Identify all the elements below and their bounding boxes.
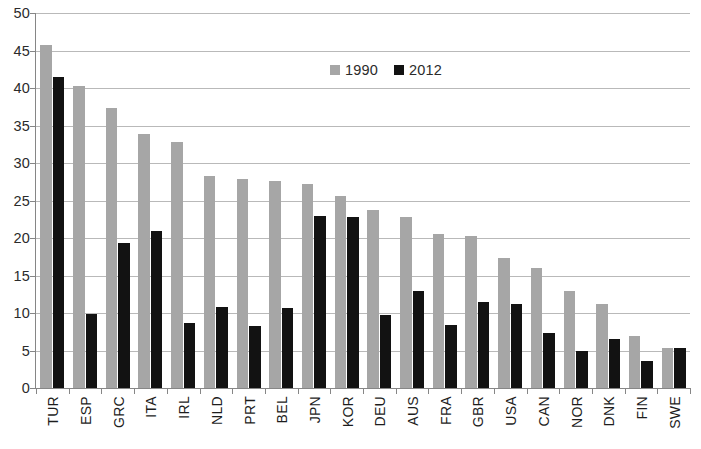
x-axis-tick-mark bbox=[363, 388, 364, 394]
x-axis-tick-mark bbox=[396, 388, 397, 394]
y-axis-tick-mark bbox=[30, 313, 35, 314]
bar-2012-USA bbox=[511, 304, 523, 388]
y-axis-tick-mark bbox=[30, 126, 35, 127]
bar-group bbox=[625, 13, 658, 388]
x-axis-tick-mark bbox=[690, 388, 691, 394]
bar-2012-KOR bbox=[347, 217, 359, 388]
x-axis-label-ITA: ITA bbox=[143, 396, 159, 418]
x-axis-tick-mark bbox=[167, 388, 168, 394]
bar-2012-GBR bbox=[478, 302, 490, 388]
bar-2012-GRC bbox=[118, 243, 130, 388]
bar-group bbox=[265, 13, 298, 388]
x-axis-tick-mark bbox=[36, 388, 37, 394]
x-axis-label-DEU: DEU bbox=[372, 396, 388, 426]
bar-2012-IRL bbox=[184, 323, 196, 388]
x-axis-tick-mark bbox=[657, 388, 658, 394]
bar-2012-PRT bbox=[249, 326, 261, 388]
y-axis-tick-label: 35 bbox=[0, 118, 30, 134]
bar-group bbox=[298, 13, 331, 388]
bar-1990-NOR bbox=[564, 291, 576, 388]
bar-group bbox=[657, 13, 690, 388]
y-axis-tick-mark bbox=[30, 13, 35, 14]
y-axis-tick-mark bbox=[30, 276, 35, 277]
y-axis-tick-label: 20 bbox=[0, 230, 30, 246]
x-axis-label-USA: USA bbox=[503, 396, 519, 426]
x-axis-label-IRL: IRL bbox=[176, 396, 192, 419]
bar-1990-FRA bbox=[433, 234, 445, 388]
y-axis-tick-mark bbox=[30, 351, 35, 352]
x-axis-tick-mark bbox=[69, 388, 70, 394]
y-axis-tick-mark bbox=[30, 388, 35, 389]
bar-1990-DEU bbox=[367, 210, 379, 389]
x-axis-label-PRT: PRT bbox=[242, 396, 258, 425]
bar-2012-ITA bbox=[151, 231, 163, 388]
x-axis-ticks bbox=[0, 388, 701, 394]
x-axis-label-FRA: FRA bbox=[438, 396, 454, 425]
bar-group bbox=[101, 13, 134, 388]
x-axis-tick-mark bbox=[232, 388, 233, 394]
y-axis-tick-label: 15 bbox=[0, 268, 30, 284]
bar-1990-USA bbox=[498, 258, 510, 389]
bar-2012-AUS bbox=[413, 291, 425, 389]
x-axis-tick-mark bbox=[527, 388, 528, 394]
legend-swatch-icon bbox=[330, 65, 340, 75]
legend-item-1990: 1990 bbox=[330, 62, 378, 78]
bar-2012-DEU bbox=[380, 315, 392, 389]
bar-group bbox=[69, 13, 102, 388]
y-axis-tick-mark bbox=[30, 163, 35, 164]
y-axis: 05101520253035404550 bbox=[0, 0, 30, 400]
y-axis-tick-label: 5 bbox=[0, 343, 30, 359]
bar-1990-ESP bbox=[73, 86, 85, 388]
y-axis-tick-mark bbox=[30, 238, 35, 239]
bar-group bbox=[461, 13, 494, 388]
x-axis-tick-mark bbox=[101, 388, 102, 394]
bar-group bbox=[592, 13, 625, 388]
x-axis-label-CAN: CAN bbox=[536, 396, 552, 426]
bar-1990-ITA bbox=[138, 134, 150, 388]
bar-2012-BEL bbox=[282, 308, 294, 388]
y-axis-tick-label: 50 bbox=[0, 5, 30, 21]
legend-label: 1990 bbox=[345, 62, 378, 78]
bar-2012-ESP bbox=[86, 314, 98, 388]
legend-label: 2012 bbox=[409, 62, 442, 78]
bar-1990-DNK bbox=[596, 304, 608, 388]
bar-1990-NLD bbox=[204, 176, 216, 388]
bar-1990-GRC bbox=[106, 108, 118, 388]
bar-1990-BEL bbox=[269, 181, 281, 388]
bar-2012-JPN bbox=[314, 216, 326, 389]
x-axis-label-GRC: GRC bbox=[111, 396, 127, 428]
bar-2012-DNK bbox=[609, 339, 621, 388]
x-axis-label-FIN: FIN bbox=[634, 396, 650, 419]
bar-chart: 05101520253035404550 TURESPGRCITAIRLNLDP… bbox=[0, 0, 701, 449]
x-axis-tick-mark bbox=[625, 388, 626, 394]
x-axis-label-TUR: TUR bbox=[45, 396, 61, 426]
x-axis-tick-mark bbox=[428, 388, 429, 394]
x-axis-tick-mark bbox=[461, 388, 462, 394]
bar-2012-TUR bbox=[53, 77, 65, 388]
bar-1990-FIN bbox=[629, 336, 641, 389]
x-axis-label-NOR: NOR bbox=[569, 396, 585, 428]
bar-1990-AUS bbox=[400, 217, 412, 388]
x-axis-label-AUS: AUS bbox=[405, 396, 421, 426]
bar-1990-TUR bbox=[40, 45, 52, 388]
x-axis-tick-mark bbox=[265, 388, 266, 394]
x-axis-tick-mark bbox=[298, 388, 299, 394]
y-axis-tick-mark bbox=[30, 201, 35, 202]
bar-2012-CAN bbox=[543, 333, 555, 389]
y-axis-tick-mark bbox=[30, 88, 35, 89]
y-axis-tick-label: 40 bbox=[0, 80, 30, 96]
legend-item-2012: 2012 bbox=[394, 62, 442, 78]
bar-2012-NLD bbox=[216, 307, 228, 388]
x-axis-label-JPN: JPN bbox=[307, 396, 323, 423]
bar-group bbox=[200, 13, 233, 388]
bar-1990-IRL bbox=[171, 142, 183, 388]
bar-group bbox=[527, 13, 560, 388]
x-axis-label-ESP: ESP bbox=[78, 396, 94, 425]
x-axis-tick-mark bbox=[559, 388, 560, 394]
bar-1990-GBR bbox=[465, 236, 477, 388]
y-axis-tick-label: 45 bbox=[0, 43, 30, 59]
x-axis-label-BEL: BEL bbox=[274, 396, 290, 423]
y-axis-tick-mark bbox=[30, 51, 35, 52]
bar-2012-FRA bbox=[445, 325, 457, 388]
x-axis-tick-mark bbox=[494, 388, 495, 394]
